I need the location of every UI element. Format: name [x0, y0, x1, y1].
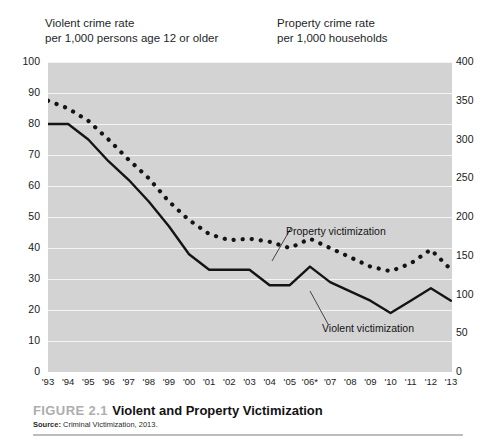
x-axis-tick-label: '09 — [364, 376, 376, 387]
left-axis-header-line2: per 1,000 persons age 12 or older — [45, 31, 218, 46]
x-axis-tick-label: '00 — [183, 376, 195, 387]
x-axis-tick-label: '08 — [344, 376, 356, 387]
x-axis-tick-label: '98 — [143, 376, 155, 387]
left-axis-tick-label: 20 — [6, 303, 40, 315]
caption-rule — [33, 434, 463, 436]
right-axis-tick-label: 300 — [456, 133, 490, 145]
left-axis-tick-label: 0 — [6, 365, 40, 377]
right-axis-tick-label: 350 — [456, 94, 490, 106]
x-axis-tick-label: '01 — [203, 376, 215, 387]
x-axis-tick-label: '13 — [445, 376, 457, 387]
source-label: Source: — [33, 420, 61, 429]
x-axis-tick-label: '95 — [82, 376, 94, 387]
figure-title: Violent and Property Victimization — [112, 403, 322, 418]
left-axis-tick-label: 80 — [6, 117, 40, 129]
left-axis-header: Violent crime rate per 1,000 persons age… — [45, 16, 218, 45]
left-axis-tick-label: 60 — [6, 179, 40, 191]
x-axis-tick-label: '94 — [62, 376, 74, 387]
x-axis-tick-label: '12 — [425, 376, 437, 387]
x-axis-tick-label: '05 — [284, 376, 296, 387]
figure-number: FIGURE 2.1 — [33, 403, 108, 418]
right-axis-tick-label: 0 — [456, 365, 490, 377]
right-axis-tick-label: 50 — [456, 326, 490, 338]
violent-victimization-line — [48, 124, 451, 313]
violent-label-leader-line — [310, 291, 328, 324]
right-axis-tick-label: 100 — [456, 288, 490, 300]
left-axis-tick-label: 50 — [6, 210, 40, 222]
right-axis-tick-label: 250 — [456, 171, 490, 183]
figure-container: Violent crime rate per 1,000 persons age… — [0, 0, 492, 446]
property-victimization-line — [48, 101, 451, 272]
right-axis-tick-label: 200 — [456, 210, 490, 222]
x-axis-tick-label: '97 — [122, 376, 134, 387]
right-axis-header-line1: Property crime rate — [277, 16, 388, 31]
x-axis-tick-label: '03 — [243, 376, 255, 387]
figure-source: Source: Criminal Victimization, 2013. — [33, 420, 158, 429]
x-axis-tick-label: '99 — [163, 376, 175, 387]
right-axis-header: Property crime rate per 1,000 households — [277, 16, 388, 45]
x-axis-tick-label: '02 — [223, 376, 235, 387]
left-axis-tick-label: 70 — [6, 148, 40, 160]
property-victimization-label: Property victimization — [286, 225, 386, 237]
left-axis-tick-label: 90 — [6, 86, 40, 98]
violent-victimization-label: Violent victimization — [322, 322, 414, 334]
x-axis-tick-label: '04 — [263, 376, 275, 387]
x-axis-tick-label: '93 — [42, 376, 54, 387]
left-axis-tick-label: 10 — [6, 334, 40, 346]
x-axis-tick-label: '10 — [384, 376, 396, 387]
right-axis-tick-label: 150 — [456, 249, 490, 261]
source-text: Criminal Victimization, 2013. — [63, 420, 157, 429]
x-axis-tick-label: '07 — [324, 376, 336, 387]
right-axis-tick-label: 400 — [456, 55, 490, 67]
left-axis-tick-label: 40 — [6, 241, 40, 253]
x-axis-tick-label: '06* — [302, 376, 318, 387]
left-axis-tick-label: 30 — [6, 272, 40, 284]
left-axis-header-line1: Violent crime rate — [45, 16, 218, 31]
left-axis-tick-label: 100 — [6, 55, 40, 67]
figure-caption: FIGURE 2.1 Violent and Property Victimiz… — [33, 401, 463, 419]
x-axis-tick-label: '96 — [102, 376, 114, 387]
right-axis-header-line2: per 1,000 households — [277, 31, 388, 46]
x-axis-tick-label: '11 — [405, 376, 417, 387]
